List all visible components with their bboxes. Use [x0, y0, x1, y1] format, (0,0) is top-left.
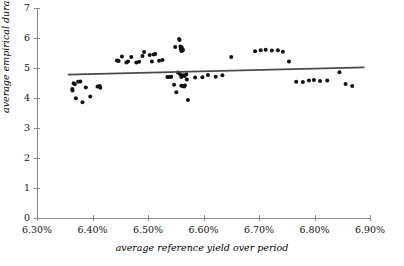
- data-point: [74, 96, 78, 100]
- data-point: [220, 73, 224, 77]
- x-tick-label: 6.30%: [22, 225, 52, 235]
- y-tick-label: 1: [24, 183, 30, 193]
- data-point: [150, 59, 154, 63]
- data-point: [78, 80, 82, 84]
- data-point: [84, 86, 88, 90]
- x-tick-label: 6.90%: [355, 225, 385, 235]
- trendline-group: [68, 67, 365, 74]
- data-point: [264, 48, 268, 52]
- y-tick-label: 6: [24, 33, 30, 43]
- trend-line: [68, 67, 365, 74]
- x-axis-title: average reference yield over period: [116, 243, 289, 253]
- data-point: [193, 76, 197, 80]
- data-point: [259, 48, 263, 52]
- data-point: [184, 72, 188, 76]
- data-point: [276, 48, 280, 52]
- data-point: [206, 73, 210, 77]
- data-point: [281, 50, 285, 54]
- data-point: [153, 52, 157, 56]
- x-tick-label: 6.40%: [77, 225, 107, 235]
- data-point: [229, 55, 233, 59]
- y-tick-label: 7: [24, 3, 30, 13]
- data-point: [185, 77, 189, 81]
- data-point: [312, 78, 316, 82]
- data-point: [71, 89, 75, 93]
- data-point: [126, 59, 130, 63]
- y-tick-label: 0: [24, 213, 30, 223]
- data-point: [169, 75, 173, 79]
- data-point: [294, 80, 298, 84]
- data-point: [117, 59, 121, 63]
- data-point: [160, 58, 164, 62]
- data-point: [88, 95, 92, 99]
- data-point: [178, 38, 182, 42]
- data-point: [307, 79, 311, 83]
- data-point: [73, 82, 77, 86]
- data-point: [137, 60, 141, 64]
- data-point: [344, 82, 348, 86]
- data-point: [129, 55, 133, 59]
- data-point: [98, 86, 102, 90]
- y-tick-label: 5: [24, 63, 30, 73]
- data-point: [318, 79, 322, 83]
- data-point: [148, 53, 152, 57]
- x-tick-label: 6.80%: [299, 225, 329, 235]
- y-tick-label: 4: [24, 93, 30, 103]
- x-tick-label: 6.70%: [244, 225, 274, 235]
- data-point: [301, 80, 305, 84]
- data-point: [337, 70, 341, 74]
- data-point: [270, 49, 274, 53]
- data-point: [142, 50, 146, 54]
- data-point: [181, 48, 185, 52]
- data-point: [174, 90, 178, 94]
- data-point: [214, 75, 218, 79]
- data-point: [200, 75, 204, 79]
- data-point: [325, 79, 329, 83]
- data-point: [172, 83, 176, 87]
- axes-group: [34, 8, 371, 221]
- data-point: [350, 84, 354, 88]
- data-point: [140, 54, 144, 58]
- y-tick-label: 3: [24, 123, 30, 133]
- data-point: [183, 83, 187, 87]
- data-point: [186, 98, 190, 102]
- data-point: [81, 100, 85, 104]
- data-point: [287, 59, 291, 63]
- scatter-chart-figure: 01234567 6.30%6.40%6.50%6.60%6.70%6.80%6…: [0, 0, 404, 266]
- y-axis-title: average empirical duration over period: [1, 0, 11, 113]
- data-point: [120, 55, 124, 59]
- y-tick-label: 2: [24, 153, 30, 163]
- data-point: [173, 45, 177, 49]
- data-point: [253, 49, 257, 53]
- x-tick-label: 6.60%: [188, 225, 218, 235]
- x-tick-label: 6.50%: [133, 225, 163, 235]
